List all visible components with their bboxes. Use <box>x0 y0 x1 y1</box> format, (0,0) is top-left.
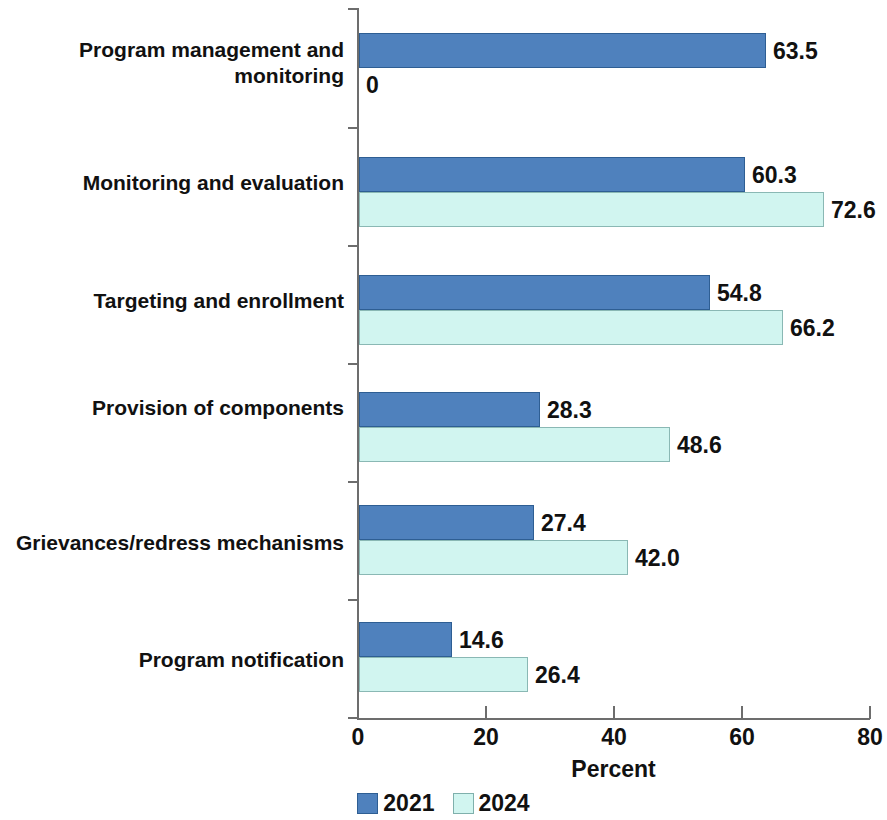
bar-2021-grievances-redress-mechanisms <box>359 505 534 540</box>
bar-value-2021-program-notification: 14.6 <box>459 627 504 654</box>
bar-value-2024-provision-of-components: 48.6 <box>677 432 722 459</box>
value-axis-tick-0 <box>357 706 359 719</box>
category-axis-tick <box>348 363 358 365</box>
bar-2024-targeting-and-enrollment <box>359 310 783 345</box>
bar-value-2024-monitoring-and-evaluation: 72.6 <box>831 197 876 224</box>
bar-2024-grievances-redress-mechanisms <box>359 540 628 575</box>
value-axis-label-60: 60 <box>712 724 772 751</box>
legend-label-2021: 2021 <box>383 790 434 817</box>
legend-swatch-icon-2024 <box>453 793 474 814</box>
value-axis-tick-40 <box>613 706 615 719</box>
value-axis-label-80: 80 <box>840 724 887 751</box>
category-label-program-management-and-monitoring: Program management and monitoring <box>14 37 344 90</box>
category-axis-tick <box>348 127 358 129</box>
category-label-grievances-redress-mechanisms: Grievances/redress mechanisms <box>14 530 344 556</box>
category-axis-tick <box>348 481 358 483</box>
category-label-targeting-and-enrollment: Targeting and enrollment <box>14 288 344 314</box>
bar-2021-targeting-and-enrollment <box>359 275 710 310</box>
bar-value-2024-program-notification: 26.4 <box>535 662 580 689</box>
category-label-line: Grievances/redress mechanisms <box>14 530 344 556</box>
category-axis-tick <box>348 599 358 601</box>
bar-2021-program-management-and-monitoring <box>359 33 766 68</box>
bar-2021-provision-of-components <box>359 392 540 427</box>
bar-2021-program-notification <box>359 622 452 657</box>
bar-2021-monitoring-and-evaluation <box>359 157 745 192</box>
value-axis-tick-20 <box>485 706 487 719</box>
bar-value-2024-grievances-redress-mechanisms: 42.0 <box>635 545 680 572</box>
bar-2024-program-notification <box>359 657 528 692</box>
bar-value-2024-targeting-and-enrollment: 66.2 <box>790 315 835 342</box>
legend-swatch-icon-2021 <box>357 793 378 814</box>
bar-value-2021-provision-of-components: 28.3 <box>547 397 592 424</box>
value-axis-label-40: 40 <box>584 724 644 751</box>
category-label-line: Targeting and enrollment <box>14 288 344 314</box>
bar-value-2021-monitoring-and-evaluation: 60.3 <box>752 162 797 189</box>
category-label-provision-of-components: Provision of components <box>14 395 344 421</box>
category-label-program-notification: Program notification <box>14 647 344 673</box>
bar-2024-monitoring-and-evaluation <box>359 192 824 227</box>
value-axis-tick-60 <box>741 706 743 719</box>
bar-value-2024-program-management-and-monitoring: 0 <box>366 72 379 99</box>
value-axis-tick-80 <box>869 706 871 719</box>
value-axis-label-20: 20 <box>456 724 516 751</box>
value-axis-label-0: 0 <box>328 724 388 751</box>
x-axis-title: Percent <box>357 756 870 783</box>
category-label-line: Program management and <box>14 37 344 63</box>
chart-legend: 2021 2024 <box>0 790 887 817</box>
legend-label-2024: 2024 <box>479 790 530 817</box>
bar-value-2021-targeting-and-enrollment: 54.8 <box>717 280 762 307</box>
category-label-line: monitoring <box>14 63 344 89</box>
plot-area: 0 20 40 60 80 Percent Program management… <box>0 0 887 820</box>
category-label-line: Provision of components <box>14 395 344 421</box>
legend-item-2024[interactable]: 2024 <box>453 790 530 817</box>
bar-chart: 0 20 40 60 80 Percent Program management… <box>0 0 887 820</box>
bar-2024-provision-of-components <box>359 427 670 462</box>
legend-item-2021[interactable]: 2021 <box>357 790 434 817</box>
category-label-monitoring-and-evaluation: Monitoring and evaluation <box>14 170 344 196</box>
category-label-line: Program notification <box>14 647 344 673</box>
category-axis-tick <box>348 8 358 10</box>
bar-value-2021-program-management-and-monitoring: 63.5 <box>773 38 818 65</box>
category-axis-tick <box>348 245 358 247</box>
bar-value-2021-grievances-redress-mechanisms: 27.4 <box>541 510 586 537</box>
category-label-line: Monitoring and evaluation <box>14 170 344 196</box>
